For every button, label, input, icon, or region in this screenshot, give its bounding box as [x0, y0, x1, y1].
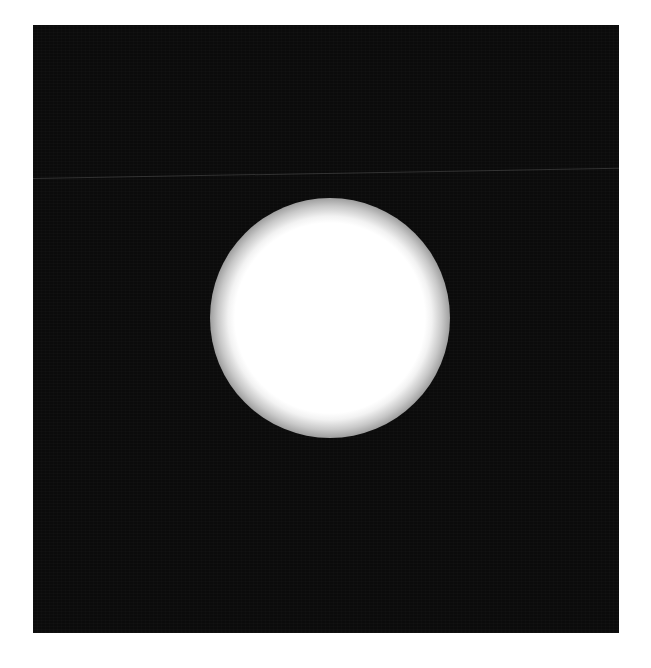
faint-scan-line — [33, 168, 619, 179]
glowing-orb — [210, 198, 450, 438]
dark-image-frame — [33, 25, 619, 633]
